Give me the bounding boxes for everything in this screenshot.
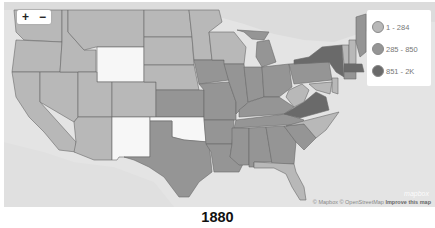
state-pennsylvania[interactable]: [289, 62, 332, 84]
state-massachusetts[interactable]: [344, 64, 364, 72]
legend-item: 1 - 284: [372, 21, 409, 33]
legend-swatch-icon: [372, 43, 384, 55]
legend-label: 851 - 2K: [386, 67, 414, 76]
zoom-in-button[interactable]: +: [22, 11, 29, 23]
legend: 1 - 284 285 - 850 851 - 2K: [367, 10, 431, 86]
state-arkansas[interactable]: [204, 120, 234, 144]
attribution-osm-link[interactable]: © OpenStreetMap: [340, 199, 384, 205]
attribution-mapbox-link[interactable]: © Mapbox: [313, 199, 338, 205]
mapbox-logo[interactable]: mapbox: [404, 190, 429, 197]
state-florida[interactable]: [254, 162, 306, 200]
map-title: 1880: [0, 207, 435, 228]
state-wisconsin[interactable]: [209, 32, 246, 64]
state-kansas[interactable]: [156, 90, 204, 117]
state-connecticut[interactable]: [344, 72, 356, 79]
map-attribution: © Mapbox © OpenStreetMap Improve this ma…: [313, 199, 431, 205]
state-wyoming[interactable]: [97, 47, 144, 82]
legend-label: 1 - 284: [386, 23, 409, 32]
state-north-dakota[interactable]: [144, 10, 192, 37]
state-oregon[interactable]: [12, 40, 62, 72]
state-new-jersey[interactable]: [332, 78, 338, 94]
state-maryland[interactable]: [309, 82, 332, 94]
state-new-mexico[interactable]: [112, 117, 150, 160]
state-ohio[interactable]: [262, 64, 292, 97]
choropleth-map[interactable]: + − 1 - 284 285 - 850 851 - 2K mapbox © …: [4, 2, 435, 207]
zoom-out-button[interactable]: −: [39, 11, 46, 23]
state-mississippi[interactable]: [230, 128, 249, 165]
state-missouri[interactable]: [199, 82, 236, 120]
state-montana[interactable]: [68, 10, 144, 50]
state-arizona[interactable]: [74, 117, 112, 160]
legend-label: 285 - 850: [386, 45, 418, 54]
legend-item: 285 - 850: [372, 43, 418, 55]
legend-item: 851 - 2K: [372, 65, 414, 77]
legend-swatch-icon: [372, 65, 384, 77]
state-maine[interactable]: [356, 14, 366, 57]
zoom-control: + −: [17, 10, 51, 24]
improve-map-link[interactable]: Improve this map: [385, 199, 431, 205]
state-south-dakota[interactable]: [144, 37, 194, 65]
state-colorado[interactable]: [112, 82, 156, 117]
legend-swatch-icon: [372, 21, 384, 33]
state-new-hampshire[interactable]: [349, 40, 356, 64]
